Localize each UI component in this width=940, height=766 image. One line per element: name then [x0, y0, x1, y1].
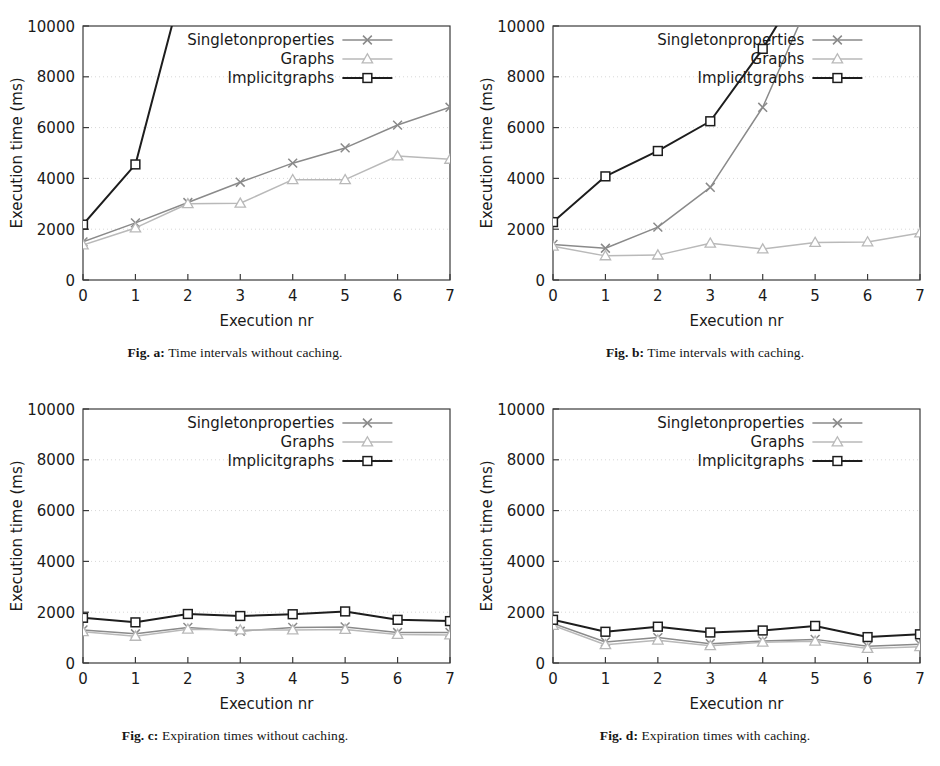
legend-label-implicit: Implicitgraphs	[697, 69, 804, 87]
y-tick-label: 10000	[497, 401, 545, 419]
y-tick-label: 4000	[507, 553, 545, 571]
x-tick-label: 1	[601, 287, 611, 305]
y-tick-label: 6000	[37, 119, 75, 137]
y-tick-label: 10000	[27, 401, 75, 419]
grid-lines	[553, 77, 920, 229]
x-tick-label: 0	[78, 287, 88, 305]
x-tick-label: 0	[548, 670, 558, 688]
legend-label-graphs: Graphs	[751, 433, 805, 451]
y-tick-label: 2000	[37, 604, 75, 622]
x-tick-label: 5	[810, 670, 820, 688]
y-tick-label: 8000	[507, 68, 545, 86]
legend-label-singleton: Singletonproperties	[187, 414, 334, 432]
x-tick-label: 3	[236, 287, 246, 305]
y-tick-label: 2000	[507, 604, 545, 622]
y-tick-label: 0	[65, 272, 75, 290]
panel-a: 020004000600080001000001234567Execution …	[0, 0, 470, 383]
x-tick-label: 6	[863, 670, 873, 688]
plot-border	[553, 409, 920, 663]
legend: SingletonpropertiesGraphsImplicitgraphs	[187, 31, 392, 87]
x-tick-label: 1	[601, 670, 611, 688]
y-tick-label: 8000	[507, 451, 545, 469]
panel-b: 020004000600080001000001234567Execution …	[470, 0, 940, 383]
legend-label-graphs: Graphs	[751, 50, 805, 68]
y-tick-label: 0	[535, 655, 545, 673]
y-tick-label: 4000	[37, 170, 75, 188]
x-tick-label: 3	[706, 670, 716, 688]
x-axis: 01234567	[548, 657, 925, 688]
caption-d: Fig. d: Expiration times with caching.	[470, 728, 940, 745]
chart-b-svg: 020004000600080001000001234567Execution …	[470, 0, 940, 340]
x-tick-label: 5	[810, 287, 820, 305]
legend: SingletonpropertiesGraphsImplicitgraphs	[187, 414, 392, 470]
y-tick-label: 6000	[507, 502, 545, 520]
y-axis-label: Execution time (ms)	[8, 77, 26, 228]
chart-a-svg: 020004000600080001000001234567Execution …	[0, 0, 470, 340]
x-tick-label: 4	[288, 670, 298, 688]
y-axis: 0200040006000800010000	[27, 18, 89, 290]
y-axis-label: Execution time (ms)	[8, 460, 26, 611]
caption-b: Fig. b: Time intervals with caching.	[470, 345, 940, 362]
legend-label-singleton: Singletonproperties	[657, 414, 804, 432]
chart-b: 020004000600080001000001234567Execution …	[470, 0, 940, 340]
x-axis: 01234567	[548, 274, 925, 305]
series-layer	[78, 607, 455, 640]
legend-label-graphs: Graphs	[281, 50, 335, 68]
y-tick-label: 2000	[507, 221, 545, 239]
series-implicit	[79, 607, 455, 627]
chart-c: 020004000600080001000001234567Execution …	[0, 383, 470, 723]
y-tick-label: 4000	[507, 170, 545, 188]
x-tick-label: 2	[183, 670, 193, 688]
y-tick-label: 2000	[37, 221, 75, 239]
grid-lines	[553, 460, 920, 612]
legend-label-implicit: Implicitgraphs	[227, 452, 334, 470]
caption-a-text: Time intervals without caching.	[168, 345, 342, 360]
y-tick-label: 0	[65, 655, 75, 673]
grid-lines	[83, 460, 450, 612]
caption-d-text: Expiration times with caching.	[641, 728, 810, 743]
x-tick-label: 7	[915, 670, 925, 688]
series-layer	[548, 615, 925, 652]
x-tick-label: 5	[340, 670, 350, 688]
chart-d-svg: 020004000600080001000001234567Execution …	[470, 383, 940, 723]
chart-c-svg: 020004000600080001000001234567Execution …	[0, 383, 470, 723]
legend-label-implicit: Implicitgraphs	[227, 69, 334, 87]
x-tick-label: 6	[393, 287, 403, 305]
x-tick-label: 4	[288, 287, 298, 305]
caption-c: Fig. c: Expiration times without caching…	[0, 728, 470, 745]
x-tick-label: 2	[653, 670, 663, 688]
y-axis-label: Execution time (ms)	[478, 77, 496, 228]
y-tick-label: 6000	[507, 119, 545, 137]
caption-c-label: Fig. c:	[122, 728, 159, 743]
x-tick-label: 7	[915, 287, 925, 305]
y-tick-label: 10000	[27, 18, 75, 36]
legend-label-singleton: Singletonproperties	[187, 31, 334, 49]
x-axis-label: Execution nr	[689, 695, 784, 713]
caption-b-label: Fig. b:	[606, 345, 644, 360]
x-axis: 01234567	[78, 657, 455, 688]
series-implicit	[549, 615, 925, 641]
x-tick-label: 7	[445, 287, 455, 305]
legend-label-singleton: Singletonproperties	[657, 31, 804, 49]
x-tick-label: 1	[131, 287, 141, 305]
x-axis: 01234567	[78, 274, 455, 305]
x-tick-label: 6	[393, 670, 403, 688]
y-axis: 0200040006000800010000	[497, 18, 559, 290]
x-tick-label: 3	[706, 287, 716, 305]
legend: SingletonpropertiesGraphsImplicitgraphs	[657, 31, 862, 87]
y-tick-label: 10000	[497, 18, 545, 36]
y-axis-label: Execution time (ms)	[478, 460, 496, 611]
x-axis-label: Execution nr	[689, 312, 784, 330]
y-tick-label: 4000	[37, 553, 75, 571]
y-axis: 0200040006000800010000	[27, 401, 89, 673]
x-tick-label: 6	[863, 287, 873, 305]
y-tick-label: 8000	[37, 68, 75, 86]
chart-a: 020004000600080001000001234567Execution …	[0, 0, 470, 340]
figure-grid: 020004000600080001000001234567Execution …	[0, 0, 940, 766]
x-axis-label: Execution nr	[219, 695, 314, 713]
caption-b-text: Time intervals with caching.	[647, 345, 804, 360]
panel-c: 020004000600080001000001234567Execution …	[0, 383, 470, 766]
y-tick-label: 8000	[37, 451, 75, 469]
legend-label-implicit: Implicitgraphs	[697, 452, 804, 470]
x-tick-label: 2	[183, 287, 193, 305]
